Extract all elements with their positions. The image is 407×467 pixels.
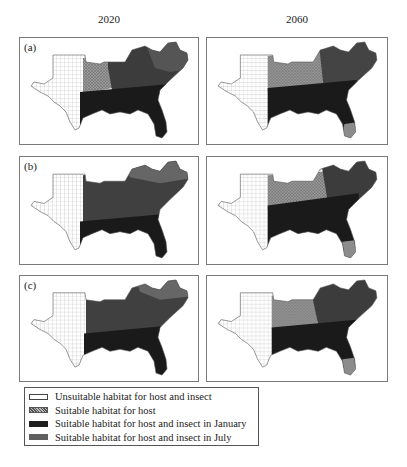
legend-item-july: Suitable habitat for host and insect in … [29,431,258,445]
legend-label: Suitable habitat for host and insect in … [55,418,247,429]
map-southeast-us [207,157,387,264]
map-southeast-us [207,38,387,144]
legend-item-january: Suitable habitat for host and insect in … [29,417,258,431]
legend: Unsuitable habitat for host and insect S… [24,387,259,446]
swatch-january-icon [29,421,48,427]
legend-item-host: Suitable habitat for host [29,404,258,418]
panel-label-a: (a) [24,41,36,53]
column-title-2060: 2060 [247,13,347,25]
map-southeast-us [20,38,198,144]
map-panel-b-2060 [206,156,388,265]
map-panel-a-2020: (a) [19,37,199,145]
legend-item-unsuitable: Unsuitable habitat for host and insect [29,390,258,404]
column-title-2020: 2020 [59,13,159,25]
legend-label: Suitable habitat for host [55,405,156,416]
legend-label: Unsuitable habitat for host and insect [55,391,212,402]
map-panel-c-2060 [206,275,388,382]
map-southeast-us [207,276,387,381]
legend-label: Suitable habitat for host and insect in … [55,432,231,443]
swatch-july-icon [29,434,48,440]
panel-label-b: (b) [24,160,37,172]
map-panel-a-2060 [206,37,388,145]
panel-label-c: (c) [24,279,36,291]
map-southeast-us [20,157,198,264]
map-panel-b-2020: (b) [19,156,199,265]
map-southeast-us [20,276,198,381]
swatch-host-icon [29,407,48,413]
map-panel-c-2020: (c) [19,275,199,382]
swatch-unsuitable-icon [29,394,48,400]
